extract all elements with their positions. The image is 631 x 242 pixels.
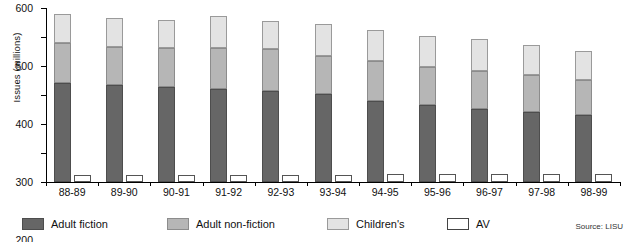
stacked-bar[interactable] bbox=[210, 16, 227, 182]
x-axis-label: 93-94 bbox=[307, 186, 359, 198]
bar-segment-fiction[interactable] bbox=[367, 101, 384, 182]
bar-segment-childrens[interactable] bbox=[54, 14, 71, 44]
x-axis-label: 94-95 bbox=[359, 186, 411, 198]
bar-segment-nonfiction[interactable] bbox=[471, 71, 488, 109]
stacked-bar[interactable] bbox=[315, 24, 332, 182]
legend-label: AV bbox=[476, 218, 490, 230]
bar-group[interactable] bbox=[106, 8, 143, 182]
bar-segment-fiction[interactable] bbox=[523, 112, 540, 182]
bar-group[interactable] bbox=[54, 8, 91, 182]
legend-item[interactable]: Children's bbox=[327, 218, 447, 230]
source-note: Source: LISU bbox=[575, 222, 623, 231]
bar-segment-fiction[interactable] bbox=[471, 109, 488, 182]
bar-segment-av[interactable] bbox=[387, 174, 404, 182]
bar-segment-av[interactable] bbox=[282, 175, 299, 182]
stacked-bar[interactable] bbox=[54, 14, 71, 182]
x-axis-label: 95-96 bbox=[411, 186, 463, 198]
legend-item[interactable]: Adult non-fiction bbox=[167, 218, 327, 230]
x-axis-line bbox=[46, 182, 620, 183]
stacked-bar[interactable] bbox=[106, 18, 123, 182]
bar-segment-nonfiction[interactable] bbox=[315, 56, 332, 94]
bar-group[interactable] bbox=[367, 8, 404, 182]
bar-segment-av[interactable] bbox=[595, 174, 612, 182]
bar-group[interactable] bbox=[315, 8, 352, 182]
legend-label: Children's bbox=[356, 218, 405, 230]
bar-segment-childrens[interactable] bbox=[158, 20, 175, 48]
bar-segment-fiction[interactable] bbox=[158, 87, 175, 182]
y-tick-label: 500 bbox=[15, 61, 33, 72]
bar-segment-av[interactable] bbox=[543, 174, 560, 182]
bar-group[interactable] bbox=[419, 8, 456, 182]
stacked-bar[interactable] bbox=[523, 45, 540, 182]
bar-group[interactable] bbox=[210, 8, 247, 182]
legend-swatch-icon bbox=[447, 218, 469, 230]
bar-segment-nonfiction[interactable] bbox=[367, 61, 384, 101]
bar-segment-fiction[interactable] bbox=[575, 115, 592, 182]
bar-segment-nonfiction[interactable] bbox=[523, 75, 540, 112]
bar-segment-av[interactable] bbox=[74, 175, 91, 182]
bar-segment-childrens[interactable] bbox=[210, 16, 227, 48]
bar-segment-av[interactable] bbox=[335, 175, 352, 182]
stacked-bar[interactable] bbox=[575, 51, 592, 182]
bar-segment-childrens[interactable] bbox=[262, 21, 279, 49]
bar-segment-fiction[interactable] bbox=[106, 85, 123, 182]
bar-segment-nonfiction[interactable] bbox=[210, 48, 227, 89]
legend-item[interactable]: Adult fiction bbox=[22, 218, 167, 230]
y-tick-label: 200 bbox=[15, 235, 33, 242]
legend-label: Adult fiction bbox=[51, 218, 108, 230]
stacked-bar[interactable] bbox=[367, 30, 384, 183]
bar-segment-childrens[interactable] bbox=[315, 24, 332, 55]
bar-segment-nonfiction[interactable] bbox=[262, 49, 279, 92]
y-tick-mark: 100 bbox=[41, 153, 46, 154]
bar-segment-childrens[interactable] bbox=[419, 36, 436, 67]
y-tick-mark: 300 bbox=[41, 95, 46, 96]
y-tick-mark: 400 bbox=[41, 66, 46, 67]
bar-segment-childrens[interactable] bbox=[523, 45, 540, 75]
stacked-bar[interactable] bbox=[419, 36, 436, 182]
x-axis-label: 97-98 bbox=[516, 186, 568, 198]
y-tick-mark: 200 bbox=[41, 124, 46, 125]
bar-segment-av[interactable] bbox=[230, 175, 247, 182]
bar-segment-nonfiction[interactable] bbox=[419, 67, 436, 105]
bar-group[interactable] bbox=[262, 8, 299, 182]
bar-segment-childrens[interactable] bbox=[575, 51, 592, 80]
stacked-bar[interactable] bbox=[158, 20, 175, 182]
y-tick-mark: 500 bbox=[41, 37, 46, 38]
bar-segment-av[interactable] bbox=[491, 174, 508, 182]
bar-segment-childrens[interactable] bbox=[471, 39, 488, 71]
bar-segment-nonfiction[interactable] bbox=[158, 48, 175, 87]
stacked-bar[interactable] bbox=[262, 21, 279, 182]
x-axis-label: 89-90 bbox=[98, 186, 150, 198]
bar-group[interactable] bbox=[158, 8, 195, 182]
bar-segment-av[interactable] bbox=[439, 174, 456, 182]
legend-swatch-icon bbox=[327, 218, 349, 230]
legend-swatch-icon bbox=[167, 218, 189, 230]
bar-segment-fiction[interactable] bbox=[419, 105, 436, 182]
bar-group[interactable] bbox=[575, 8, 612, 182]
legend-item[interactable]: AV bbox=[447, 218, 490, 230]
bar-segment-fiction[interactable] bbox=[262, 91, 279, 182]
plot-area: 0100200300400500600 88-8989-9090-9191-92… bbox=[46, 8, 620, 182]
y-tick-label: 300 bbox=[15, 177, 33, 188]
bar-segment-childrens[interactable] bbox=[367, 30, 384, 61]
x-axis-label: 98-99 bbox=[568, 186, 620, 198]
x-axis-label: 91-92 bbox=[203, 186, 255, 198]
bar-group[interactable] bbox=[523, 8, 560, 182]
bar-group[interactable] bbox=[471, 8, 508, 182]
bar-segment-fiction[interactable] bbox=[54, 83, 71, 182]
bar-segment-nonfiction[interactable] bbox=[106, 47, 123, 85]
bar-segment-childrens[interactable] bbox=[106, 18, 123, 47]
bar-segment-fiction[interactable] bbox=[315, 94, 332, 182]
bar-segment-nonfiction[interactable] bbox=[54, 43, 71, 83]
bar-segment-fiction[interactable] bbox=[210, 89, 227, 182]
chart-legend: Adult fictionAdult non-fictionChildren's… bbox=[22, 218, 490, 230]
legend-swatch-icon bbox=[22, 218, 44, 230]
bar-segment-av[interactable] bbox=[178, 175, 195, 182]
y-tick-label: 400 bbox=[15, 119, 33, 130]
x-axis-label: 88-89 bbox=[46, 186, 98, 198]
bar-segment-nonfiction[interactable] bbox=[575, 80, 592, 115]
x-axis-label: 96-97 bbox=[463, 186, 515, 198]
stacked-bar[interactable] bbox=[471, 39, 488, 182]
stacked-bar-chart: Issues (millions) 0100200300400500600 88… bbox=[0, 0, 631, 242]
bar-segment-av[interactable] bbox=[126, 175, 143, 182]
